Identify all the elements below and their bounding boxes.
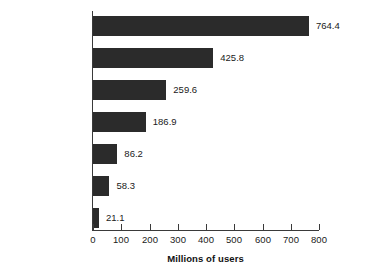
bar-value-label: 86.2	[124, 148, 143, 160]
x-axis-tick	[150, 224, 151, 230]
bar-value-label: 764.4	[316, 20, 340, 32]
x-axis-tick	[121, 224, 122, 230]
bar-chart: Asia764.4Europe425.8North America259.6La…	[0, 0, 366, 279]
x-axis-tick	[93, 224, 94, 230]
bar-value-label: 21.1	[106, 212, 125, 224]
bar-value-label: 259.6	[173, 84, 197, 96]
x-axis-tick-label: 800	[299, 234, 339, 245]
bar-value-label: 425.8	[220, 52, 244, 64]
bar-value-label: 58.3	[116, 180, 135, 192]
bar	[93, 144, 117, 164]
x-axis-tick	[291, 224, 292, 230]
x-axis-tick	[319, 224, 320, 230]
x-axis-line	[92, 230, 319, 231]
bar	[93, 16, 309, 36]
bar-value-label: 186.9	[153, 116, 177, 128]
x-axis-tick	[206, 224, 207, 230]
x-axis-tick	[234, 224, 235, 230]
bar	[93, 48, 213, 68]
plot-area: Asia764.4Europe425.8North America259.6La…	[0, 0, 366, 279]
x-axis-title: Millions of users	[92, 253, 319, 264]
bar	[93, 80, 166, 100]
x-axis-tick	[178, 224, 179, 230]
bar	[93, 176, 109, 196]
bar	[93, 112, 146, 132]
x-axis-tick	[263, 224, 264, 230]
